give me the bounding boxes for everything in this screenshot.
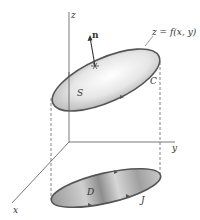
curve-label: C — [150, 76, 157, 86]
normal-label: n — [92, 30, 99, 40]
equation-leader — [145, 36, 153, 46]
surface-equation-label: z = f(x, y) — [151, 27, 197, 37]
z-axis-label: z — [70, 10, 76, 20]
surface-label: S — [77, 88, 83, 98]
region-d — [48, 161, 164, 215]
stokes-diagram: z y x n z = f(x, y) S C D J — [0, 0, 200, 220]
x-axis-label: x — [13, 205, 18, 215]
boundary-label: J — [139, 195, 146, 205]
y-axis-label: y — [171, 143, 178, 153]
region-label: D — [86, 187, 94, 197]
